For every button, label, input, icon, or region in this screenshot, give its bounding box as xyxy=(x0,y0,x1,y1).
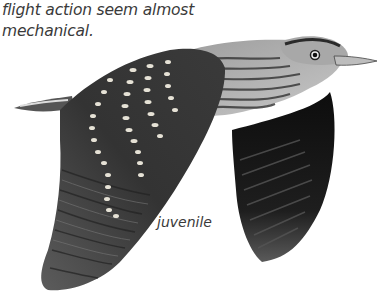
bill xyxy=(334,56,377,65)
juvenile-label: juvenile xyxy=(157,214,212,230)
bird-illustration xyxy=(0,0,377,299)
far-wing xyxy=(232,92,335,262)
